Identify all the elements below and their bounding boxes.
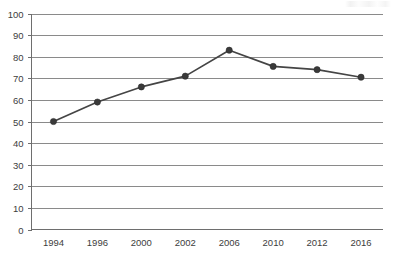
y-axis-tick-label: 80 [13, 52, 24, 63]
y-axis-tick-label: 20 [13, 181, 24, 192]
y-axis-tick-label: 50 [13, 117, 24, 128]
y-axis-tick-label: 0 [18, 225, 23, 236]
data-point-marker [314, 67, 320, 73]
y-axis-tick-label: 100 [8, 9, 24, 20]
x-axis-tick-label: 2000 [131, 237, 152, 248]
data-series-line [53, 50, 361, 121]
y-axis-tick-label: 40 [13, 138, 24, 149]
y-axis-tick-label: 70 [13, 73, 24, 84]
x-axis-tick-labels: 19941996200020022006201020122016 [43, 237, 372, 248]
data-point-marker [182, 73, 188, 79]
y-axis-tick-labels: 1009080706050403020100 [8, 9, 24, 236]
data-point-marker [138, 84, 144, 90]
data-point-marker [94, 99, 100, 105]
data-point-markers [50, 47, 364, 124]
x-axis-tick-label: 1994 [43, 237, 64, 248]
data-point-marker [270, 63, 276, 69]
y-axis-tick-label: 10 [13, 203, 24, 214]
chart-plot-area: 1009080706050403020100 19941996200020022… [0, 0, 395, 262]
x-axis-tick-label: 1996 [87, 237, 108, 248]
y-axis-tick-label: 30 [13, 160, 24, 171]
x-axis-tick-label: 2006 [219, 237, 240, 248]
data-point-marker [50, 118, 56, 124]
data-point-marker [358, 74, 364, 80]
x-axis-tick-label: 2016 [350, 237, 371, 248]
x-axis-tick-label: 2012 [307, 237, 328, 248]
data-point-marker [226, 47, 232, 53]
y-axis-tick-label: 90 [13, 30, 24, 41]
x-axis-tick-label: 2010 [263, 237, 284, 248]
y-axis-tick-label: 60 [13, 95, 24, 106]
gridlines-group [32, 15, 384, 209]
line-chart-figure: 1009080706050403020100 19941996200020022… [0, 0, 395, 262]
x-axis-tick-label: 2002 [175, 237, 196, 248]
